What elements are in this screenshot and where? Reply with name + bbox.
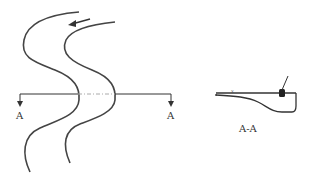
channel-left-bank [23,12,79,172]
water-level-mark: x [231,88,234,94]
marker-block [279,89,285,97]
section-arrow-right-icon [168,101,174,107]
probe-line [282,76,288,90]
diagram-canvas: x [0,0,312,180]
section-line [17,94,174,107]
section-label-right: A [167,111,174,121]
section-label-left: A [16,111,23,121]
section-arrow-left-icon [17,101,23,107]
section-view-title: A-A [239,124,257,134]
cross-section-view: x [216,76,296,112]
flow-arrow-icon [68,19,90,27]
channel-right-bank [64,22,115,163]
